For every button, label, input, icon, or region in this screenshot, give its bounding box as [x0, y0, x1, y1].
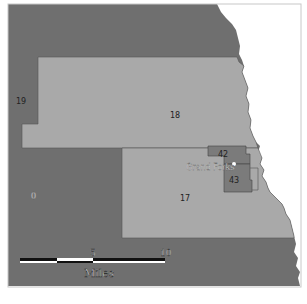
district-label-17: 17 — [180, 194, 190, 203]
district-map: 19 18 17 42 43 0 Grand Forks 5 10 Miles — [0, 0, 307, 304]
scale-unit-label: Miles — [84, 267, 115, 280]
district-label-42: 42 — [218, 150, 228, 159]
scale-tick-10: 10 — [160, 248, 172, 258]
district-label-43: 43 — [229, 176, 239, 185]
district-18 — [22, 57, 258, 148]
scale-tick-5: 5 — [90, 248, 96, 258]
scale-bar — [20, 258, 165, 263]
district-label-0: 0 — [31, 192, 36, 201]
city-label: Grand Forks — [186, 163, 234, 172]
district-label-18: 18 — [170, 111, 180, 120]
district-label-19: 19 — [16, 97, 26, 106]
